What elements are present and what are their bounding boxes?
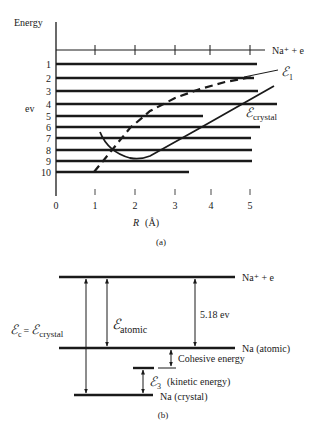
- cohesive-label: Cohesive energy: [178, 353, 245, 364]
- svg-text:3: 3: [173, 200, 178, 211]
- panel-b: Na⁺ + e Na (atomic) Na (crystal) 5.18 ev…: [10, 272, 290, 420]
- e-crystal-curve: [100, 86, 274, 159]
- energy-levels: [56, 64, 277, 172]
- level-labels: 1 2 3 4 5 6 7 8 9 10: [41, 59, 51, 178]
- svg-text:7: 7: [46, 133, 51, 144]
- svg-text:4: 4: [209, 200, 214, 211]
- svg-text:8: 8: [46, 145, 51, 156]
- svg-text:1: 1: [46, 59, 51, 70]
- x-axis-label: R(Å): [132, 217, 159, 229]
- energy-level-diagram: Energy ev Na⁺ + e 1 2: [0, 0, 329, 430]
- svg-text:1: 1: [93, 200, 98, 211]
- caption-b: (b): [158, 410, 169, 420]
- svg-text:2: 2: [133, 200, 138, 211]
- top-level-label: Na⁺ + e: [272, 45, 305, 56]
- e1-leader: [244, 70, 278, 77]
- panel-a: Energy ev Na⁺ + e 1 2: [14, 17, 305, 247]
- ionization-value: 5.18 ev: [200, 309, 229, 320]
- y-unit-label: ev: [25, 103, 34, 114]
- level-na-crystal-label: Na (crystal): [160, 391, 207, 403]
- svg-text:3: 3: [46, 86, 51, 97]
- level-na-ion-label: Na⁺ + e: [242, 272, 275, 283]
- x-ticks: [95, 189, 250, 195]
- e3-label: ℰ3: [149, 374, 161, 391]
- level-na-atomic-label: Na (atomic): [242, 343, 290, 355]
- svg-text:4: 4: [46, 99, 51, 110]
- y-axis-label: Energy: [14, 17, 43, 28]
- svg-text:2: 2: [46, 73, 51, 84]
- e1-label: ℰ1: [281, 64, 293, 82]
- caption-a: (a): [156, 237, 166, 247]
- ec-label: ℰc=ℰcrystal: [10, 322, 64, 339]
- svg-text:5: 5: [46, 111, 51, 122]
- svg-text:10: 10: [41, 167, 51, 178]
- svg-text:6: 6: [46, 122, 51, 133]
- atomic-label: ℰatomic: [112, 317, 148, 335]
- x-tick-labels: 0 1 2 3 4 5: [54, 200, 253, 211]
- svg-text:5: 5: [248, 200, 253, 211]
- svg-text:9: 9: [46, 156, 51, 167]
- e3-desc: (kinetic energy): [167, 376, 230, 388]
- svg-text:0: 0: [54, 200, 59, 211]
- e-crystal-label: ℰcrystal: [245, 105, 277, 122]
